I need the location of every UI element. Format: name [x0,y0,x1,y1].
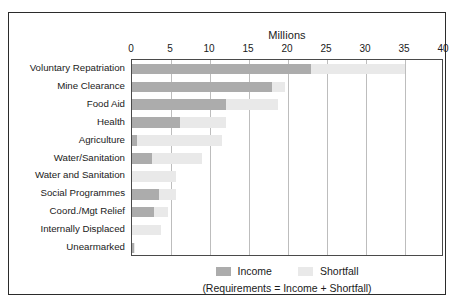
category-label: Mine Clearance [0,77,125,95]
bar-segment-shortfall [134,243,135,254]
legend-item-shortfall: Shortfall [298,265,359,277]
bar-segment-shortfall [159,189,176,200]
bar-segment-income [132,117,180,128]
bar-row [132,221,442,239]
bar-row [132,78,442,96]
x-tick-label-25: 25 [313,43,339,54]
bar-row [132,96,442,114]
bar-segment-income [132,82,272,93]
bar-segment-income [132,64,311,75]
bar-segment-shortfall [152,153,202,164]
legend-label-income: Income [238,265,272,277]
legend-item-income: Income [216,265,272,277]
category-label: Food Aid [0,95,125,113]
bar-segment-income [132,153,152,164]
bar-row [132,60,442,78]
category-label: Voluntary Repatriation [0,59,125,77]
bar-row [132,167,442,185]
category-label: Coord./Mgt Relief [0,202,125,220]
legend-label-shortfall: Shortfall [320,265,359,277]
legend-swatch-shortfall [298,267,313,276]
bar-row [132,132,442,150]
category-label: Unearmarked [0,238,125,256]
bar-segment-shortfall [137,135,221,146]
x-tick-label-35: 35 [391,43,417,54]
bar-row [132,239,442,257]
bar-segment-shortfall [154,207,168,218]
category-label: Water and Sanitation [0,166,125,184]
legend-swatch-income [216,267,231,276]
x-tick-label-40: 40 [430,43,454,54]
bar-segment-income [132,207,154,218]
x-tick-label-30: 30 [352,43,378,54]
category-label: Health [0,113,125,131]
chart-caption: (Requirements = Income + Shortfall) [131,282,443,294]
bar-segment-shortfall [226,99,278,110]
bar-row [132,185,442,203]
plot-area [131,59,443,256]
bar-segment-shortfall [132,225,161,236]
bar-row [132,203,442,221]
x-tick-label-20: 20 [274,43,300,54]
x-tick-label-15: 15 [235,43,261,54]
bar-segment-shortfall [272,82,284,93]
category-label: Social Programmes [0,184,125,202]
bar-segment-shortfall [132,171,176,182]
bar-segment-income [132,99,226,110]
category-label: Agriculture [0,131,125,149]
bar-row [132,150,442,168]
axis-title: Millions [131,29,443,41]
chart-frame: Millions 0510152025303540 Voluntary Repa… [8,12,446,295]
bar-segment-shortfall [180,117,227,128]
bar-row [132,114,442,132]
bar-segment-shortfall [311,64,405,75]
x-tick-label-0: 0 [118,43,144,54]
bar-segment-income [132,189,159,200]
category-label: Internally Displaced [0,220,125,238]
chart-legend: Income Shortfall [131,265,443,277]
x-tick-label-10: 10 [196,43,222,54]
x-tick-label-5: 5 [157,43,183,54]
category-label: Water/Sanitation [0,149,125,167]
